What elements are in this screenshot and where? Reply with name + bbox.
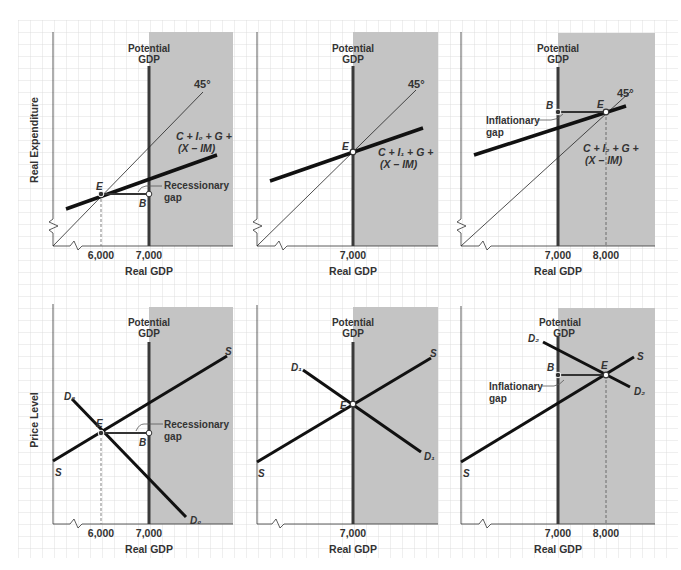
tick-8000: 8,000	[593, 527, 619, 539]
45-degree-label: 45°	[617, 87, 634, 99]
point-b	[146, 430, 152, 436]
ae-label-line2: (X – IM)	[380, 158, 418, 170]
x-axis-title: Real GDP	[329, 543, 377, 555]
y-axis-title: Real Expenditure	[28, 97, 40, 183]
point-e	[603, 109, 609, 115]
recessionary-gap-label: Recessionary	[164, 180, 229, 191]
point-e	[350, 401, 356, 407]
b-label: B	[139, 198, 146, 209]
potential-label-gdp: GDP	[138, 54, 160, 65]
supply-label-bottom: S	[55, 467, 62, 478]
inflationary-gap-label2: gap	[486, 127, 504, 138]
shaded-region	[558, 308, 655, 524]
potential-label-gdp: GDP	[342, 328, 364, 339]
tick-7000: 7,000	[545, 249, 571, 261]
supply-label-bottom: S	[258, 468, 265, 479]
supply-label-top: S	[637, 351, 644, 362]
tick-6000: 6,000	[88, 249, 114, 261]
shaded-region	[558, 33, 655, 246]
45-degree-label: 45°	[408, 78, 425, 90]
demand-label-top: D₁	[291, 362, 302, 373]
demand-label-top: D₂	[528, 333, 539, 344]
potential-label-gdp: GDP	[553, 328, 575, 339]
potential-label-gdp: GDP	[547, 54, 569, 65]
tick-7000: 7,000	[136, 527, 162, 539]
tick-7000: 7,000	[136, 249, 162, 261]
e-label: E	[340, 400, 347, 411]
x-axis-title: Real GDP	[534, 265, 582, 277]
tick-6000: 6,000	[88, 527, 114, 539]
potential-label: Potential	[537, 43, 579, 54]
potential-label: Potential	[332, 43, 374, 54]
figure-canvas: Potential GDP 45° C + I₀ + G + (X – IM) …	[0, 0, 681, 570]
x-axis-title: Real GDP	[534, 543, 582, 555]
e-label: E	[597, 99, 604, 110]
ae-label-line1: C + I₂ + G +	[583, 142, 639, 154]
point-b	[555, 372, 561, 378]
inflationary-gap-label2: gap	[489, 393, 507, 404]
demand-label-bottom: D₀	[190, 515, 201, 526]
e-label: E	[601, 360, 608, 371]
supply-label-top: S	[430, 348, 437, 359]
potential-label: Potential	[128, 43, 170, 54]
recessionary-gap-label: Recessionary	[164, 419, 229, 430]
point-e	[98, 191, 104, 197]
recessionary-gap-label2: gap	[164, 431, 182, 442]
tick-7000: 7,000	[340, 249, 366, 261]
recessionary-gap-label2: gap	[164, 192, 182, 203]
tick-7000: 7,000	[545, 527, 571, 539]
x-axis-title: Real GDP	[125, 543, 173, 555]
b-label: B	[139, 437, 146, 448]
potential-label-gdp: GDP	[138, 328, 160, 339]
potential-label: Potential	[128, 317, 170, 328]
45-degree-label: 45°	[194, 78, 211, 90]
b-label: B	[547, 362, 554, 373]
tick-8000: 8,000	[593, 249, 619, 261]
demand-label-bottom: D₁	[424, 451, 435, 462]
supply-label-top: S	[225, 346, 232, 357]
point-e	[98, 430, 104, 436]
x-axis-title: Real GDP	[329, 265, 377, 277]
point-b	[555, 109, 561, 115]
ae-label-line1: C + I₀ + G +	[176, 130, 232, 142]
potential-label-gdp: GDP	[342, 54, 364, 65]
b-label: B	[546, 100, 553, 111]
y-axis-title: Price Level	[28, 392, 40, 448]
potential-label: Potential	[539, 317, 581, 328]
shaded-region	[353, 307, 438, 524]
ae-label-line2: (X – IM)	[585, 154, 623, 166]
x-axis-title: Real GDP	[125, 265, 173, 277]
e-label: E	[342, 141, 349, 152]
e-label: E	[96, 181, 103, 192]
e-label: E	[96, 418, 103, 429]
potential-label: Potential	[332, 317, 374, 328]
demand-label-top: D₀	[64, 391, 75, 402]
inflationary-gap-label: Inflationary	[486, 115, 540, 126]
demand-label-bottom: D₂	[634, 386, 645, 397]
tick-7000: 7,000	[340, 527, 366, 539]
ae-label-line2: (X – IM)	[178, 142, 216, 154]
inflationary-gap-label: Inflationary	[489, 381, 543, 392]
supply-label-bottom: S	[463, 468, 470, 479]
point-b	[146, 191, 152, 197]
ae-label-line1: C + I₁ + G +	[378, 146, 433, 158]
point-e	[350, 149, 356, 155]
point-e	[603, 372, 609, 378]
